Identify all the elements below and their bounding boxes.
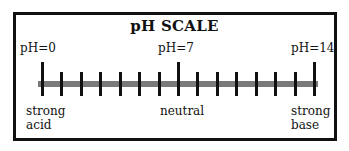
tick-ph-3 [99,72,102,96]
tick-ph-9 [216,72,219,96]
label-ph-7: pH=7 [158,41,194,55]
tick-ph-6 [158,72,161,96]
tick-ph-8 [196,72,199,96]
tick-ph-2 [80,72,83,96]
tick-ph-12 [274,72,277,96]
tick-ph-14 [313,62,316,96]
label-strong-acid-line1: strong [26,104,65,118]
label-strong-acid: strong acid [26,104,65,132]
label-ph-0: pH=0 [20,41,56,55]
tick-ph-13 [294,72,297,96]
tick-ph-11 [255,72,258,96]
tick-ph-1 [60,72,63,96]
tick-ph-10 [235,72,238,96]
tick-ph-7 [177,62,180,96]
label-strong-base-line1: strong [291,104,330,118]
label-neutral-line1: neutral [160,104,204,118]
tick-ph-0 [41,62,44,96]
label-ph-14: pH=14 [291,41,334,55]
diagram-title: pH SCALE [0,17,349,35]
tick-ph-5 [138,72,141,96]
label-strong-base-line2: base [291,118,330,132]
tick-ph-4 [119,72,122,96]
label-strong-acid-line2: acid [26,118,65,132]
label-strong-base: strong base [291,104,330,132]
label-neutral: neutral [160,104,204,118]
